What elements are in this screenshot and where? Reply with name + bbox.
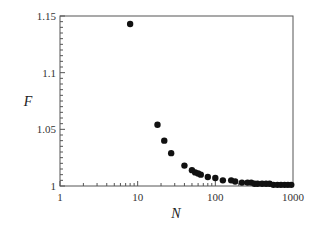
x-tick-label: 10	[132, 191, 144, 203]
data-point	[205, 174, 211, 180]
y-tick-label: 1.05	[37, 123, 57, 135]
plot-frame	[60, 16, 293, 186]
x-axis-title: N	[170, 206, 181, 221]
data-point	[154, 122, 160, 128]
data-point	[239, 179, 245, 185]
data-point	[198, 171, 204, 177]
y-tick-label: 1.15	[37, 10, 57, 22]
y-tick-label: 1.1	[42, 67, 56, 79]
data-point	[181, 162, 187, 168]
data-point	[127, 21, 133, 27]
y-axis-title: F	[23, 94, 33, 109]
data-point	[212, 175, 218, 181]
data-point	[220, 177, 226, 183]
plot-border	[60, 16, 293, 186]
x-tick-label: 1	[57, 191, 63, 203]
x-tick-label: 1000	[282, 191, 305, 203]
y-tick-label: 1	[51, 180, 57, 192]
x-tick-label: 100	[207, 191, 224, 203]
scatter-chart: 11.051.11.15 1101001000 F N	[0, 0, 319, 228]
y-axis: 11.051.11.15	[37, 10, 65, 192]
data-point	[288, 182, 294, 188]
data-point	[232, 178, 238, 184]
data-points	[127, 21, 295, 188]
data-point	[168, 150, 174, 156]
data-point	[161, 137, 167, 143]
